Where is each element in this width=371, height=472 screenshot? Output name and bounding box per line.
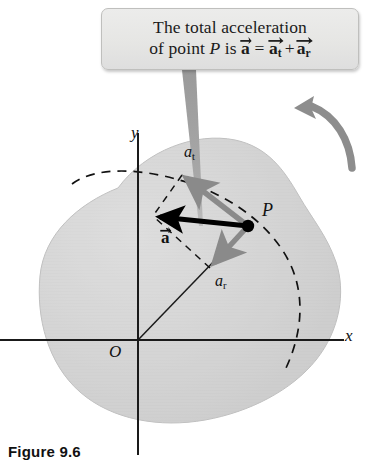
point-p-label: P (262, 200, 273, 221)
figure-diagram (0, 0, 371, 472)
tangential-acceleration-label: at (184, 143, 195, 162)
vector-ar-symbol: ar (297, 38, 311, 61)
vector-a-diagram-symbol: a (161, 228, 170, 248)
callout-line-1: The total acceleration (153, 17, 307, 38)
callout-box: The total acceleration of point P is a =… (101, 8, 359, 70)
x-axis-label: x (345, 326, 353, 346)
callout-line-2: of point P is a = at+ar (149, 38, 311, 61)
figure-caption: Figure 9.6 (8, 443, 81, 460)
origin-label: O (109, 342, 121, 362)
plus-sign: + (285, 38, 295, 58)
rotation-direction-arrow (294, 96, 352, 168)
callout-point-label: P (209, 38, 220, 58)
point-p-marker (242, 220, 254, 232)
figure-9-6: The total acceleration of point P is a =… (0, 0, 371, 472)
vector-at-symbol: at (269, 38, 282, 61)
equals-sign: = (254, 38, 264, 58)
total-acceleration-label: a (161, 228, 170, 248)
y-axis-label: y (131, 123, 139, 143)
vector-a-symbol: a (241, 38, 250, 59)
radial-acceleration-label: ar (215, 272, 227, 291)
